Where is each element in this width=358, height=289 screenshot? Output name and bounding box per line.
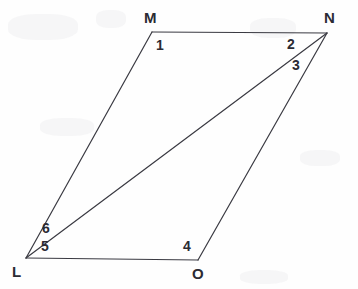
edge-no	[198, 33, 327, 260]
edge-mn	[152, 32, 327, 33]
angle-label-1: 1	[156, 38, 164, 52]
vertex-label-o: O	[192, 266, 204, 281]
angle-label-5: 5	[41, 239, 49, 253]
angle-label-3: 3	[292, 58, 300, 72]
parallelogram-svg	[0, 0, 358, 289]
angle-label-4: 4	[183, 239, 191, 253]
vertex-label-l: L	[12, 264, 21, 279]
edge-ol	[26, 258, 198, 260]
angle-label-2: 2	[287, 37, 295, 51]
edge-ln	[26, 33, 327, 258]
vertex-label-m: M	[144, 10, 157, 25]
geometry-figure: M N L O 1 2 3 4 5 6	[0, 0, 358, 289]
angle-label-6: 6	[42, 221, 50, 235]
vertex-label-n: N	[324, 10, 335, 25]
